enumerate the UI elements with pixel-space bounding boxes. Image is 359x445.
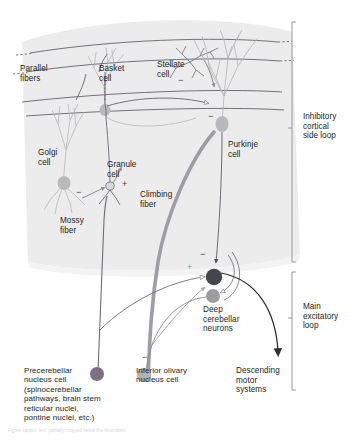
sign-stellate-to-purkinje: −	[178, 76, 183, 85]
label-inferior-olivary-nucleus-cell: Inferior olivary nucleus cell	[136, 366, 226, 385]
sign-purkinje-to-deep: −	[200, 250, 205, 259]
label-granule-cell: Granule cell	[107, 160, 136, 179]
deep-nucleus-light	[206, 289, 220, 303]
label-climbing-fiber: Climbing fiber	[140, 190, 172, 209]
sign-golgi-to-granule: −	[76, 188, 81, 197]
cerebellar-cortex-band	[22, 20, 300, 276]
bracket-label-main-excitatory-loop: Main excitatory loop	[303, 302, 338, 331]
label-precerebellar-nucleus-cell: Precerebellar nucleus cell (spinocerebel…	[24, 366, 136, 422]
label-descending-motor-systems: Descending motor systems	[236, 366, 280, 395]
sign-deep-to-olive: −	[142, 353, 147, 362]
sign-mossy-to-deep: +	[187, 263, 192, 272]
label-deep-cerebellar-neurons: Deep cerebellar neurons	[203, 305, 239, 334]
bracket-main-excitatory-loop	[288, 272, 296, 390]
label-golgi-cell: Golgi cell	[38, 148, 57, 167]
label-purkinje-cell: Purkinje cell	[228, 140, 258, 159]
deep-nuclei-group	[206, 269, 222, 303]
label-mossy-fiber: Mossy fiber	[60, 216, 84, 235]
label-parallel-fibers: Parallel fibers	[20, 64, 48, 83]
deep-nucleus-dark	[206, 269, 222, 285]
sign-granule-excitatory: +	[122, 180, 127, 189]
figure-caption: Figure caption text, partially cropped b…	[8, 428, 352, 434]
deep-to-inferior-olive	[146, 297, 206, 372]
sign-basket-to-purkinje: −	[208, 112, 213, 121]
climbing-collateral-to-deep	[152, 288, 204, 345]
label-basket-cell: Basket cell	[99, 64, 124, 83]
cerebellar-circuit-figure: Parallel fibers Basket cell Stellate cel…	[0, 0, 359, 445]
bracket-label-inhibitory-cortical-side-loop: Inhibitory cortical side loop	[303, 112, 336, 141]
